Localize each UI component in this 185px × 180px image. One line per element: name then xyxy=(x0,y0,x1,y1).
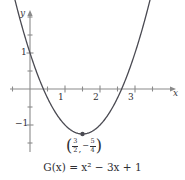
annotation-x-fraction: 3 2 xyxy=(72,138,78,154)
vertex-dot xyxy=(80,132,84,136)
y-tick-label-neg1: −1 xyxy=(15,119,28,128)
parabola-figure: y x 1 2 3 1 −1 ( 3 2 , − 5 4 ) G(x) = x²… xyxy=(0,0,185,180)
y-axis-arrow xyxy=(27,10,32,16)
vertex-coordinate-annotation: ( 3 2 , − 5 4 ) xyxy=(58,137,110,159)
x-tick-label-2: 2 xyxy=(93,93,99,102)
x-tick-label-1: 1 xyxy=(58,93,64,102)
x-axis-label: x xyxy=(173,89,178,98)
annotation-x-denominator: 2 xyxy=(72,146,78,155)
annotation-y-fraction: 5 4 xyxy=(90,138,96,154)
y-axis-label: y xyxy=(20,9,25,18)
x-tick-label-3: 3 xyxy=(128,93,134,102)
plot-canvas xyxy=(0,0,185,160)
annotation-close-paren: ) xyxy=(96,137,102,155)
figure-caption: G(x) = x² − 3x + 1 xyxy=(0,160,185,174)
parabola-curve-main xyxy=(14,0,152,134)
annotation-y-numerator: 5 xyxy=(90,138,96,146)
annotation-minus-sign: − xyxy=(82,137,89,155)
y-tick-label-1: 1 xyxy=(21,48,27,57)
annotation-x-numerator: 3 xyxy=(72,138,78,146)
annotation-y-denominator: 4 xyxy=(90,146,96,155)
